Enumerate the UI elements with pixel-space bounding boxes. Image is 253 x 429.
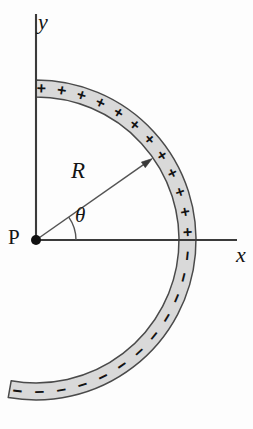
physics-figure: ++++++++++++−−−−−−−−−−−− y x P R θ [0,0,253,429]
positive-charge-sign: + [36,79,46,96]
point-p-dot [31,235,41,245]
negative-charge-sign: − [177,250,197,262]
radius-arrowhead-icon [141,159,152,168]
radius-label: R [71,159,85,182]
x-axis-label: x [236,244,246,266]
y-axis-label: y [38,11,48,33]
point-p-label: P [8,227,20,248]
radius-vector-line [36,164,145,240]
positive-charge-sign: + [179,227,196,237]
diagram-canvas: ++++++++++++−−−−−−−−−−−− [0,0,253,429]
angle-label: θ [75,205,85,226]
negative-charge-sign: − [34,382,44,401]
